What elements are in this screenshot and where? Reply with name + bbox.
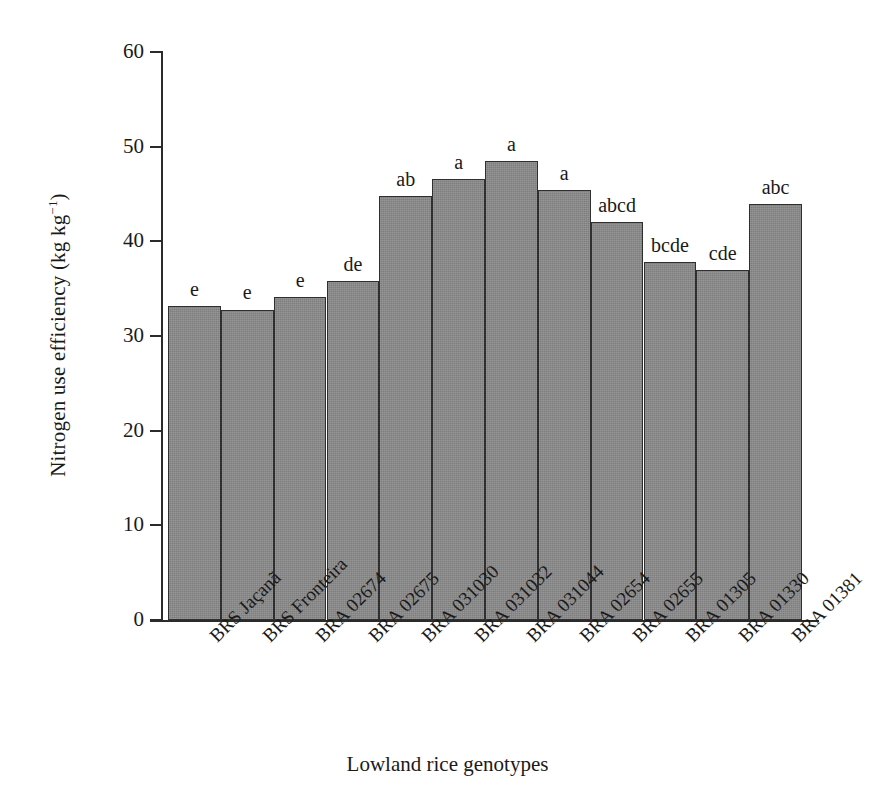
bar bbox=[221, 310, 274, 621]
bar-significance-letter: e bbox=[221, 282, 274, 302]
y-axis-tick-label: 40 bbox=[86, 230, 144, 252]
bar bbox=[591, 222, 644, 620]
y-axis-tick bbox=[150, 430, 162, 432]
x-axis-tick-label: BRA 01305 bbox=[682, 632, 695, 645]
y-axis-title: Nitrogen use efficiency (kg kg−1) bbox=[45, 55, 71, 615]
bar-significance-letter: e bbox=[168, 279, 221, 299]
y-axis-title-exponent: −1 bbox=[45, 200, 60, 214]
bar-significance-letter: a bbox=[485, 134, 538, 154]
bar-chart-figure: Nitrogen use efficiency (kg kg−1) 010203… bbox=[0, 0, 895, 796]
bar-significance-letter: a bbox=[432, 152, 485, 172]
bar bbox=[327, 281, 380, 620]
x-axis-spine bbox=[150, 620, 819, 622]
bar bbox=[538, 190, 591, 620]
x-axis-tick-label: BRA 031032 bbox=[471, 632, 484, 645]
bar-significance-letter: abcd bbox=[591, 195, 644, 215]
bar-significance-letter: abc bbox=[749, 177, 802, 197]
x-axis-tick-label: BRS Jaçanã bbox=[206, 632, 219, 645]
x-axis-tick-label: BRA 031044 bbox=[523, 632, 536, 645]
y-axis-tick-label: 20 bbox=[86, 420, 144, 442]
bar-significance-letter: de bbox=[327, 254, 380, 274]
y-axis-tick bbox=[150, 524, 162, 526]
y-axis-tick bbox=[150, 240, 162, 242]
bar-significance-letter: a bbox=[538, 163, 591, 183]
bar-significance-letter: cde bbox=[696, 243, 749, 263]
y-axis-tick bbox=[150, 51, 162, 53]
y-axis-tick-label: 50 bbox=[86, 136, 144, 158]
y-axis-tick-label: 30 bbox=[86, 325, 144, 347]
x-axis-tick-label: BRA 031030 bbox=[418, 632, 431, 645]
x-axis-tick-label: BRA 02675 bbox=[365, 632, 378, 645]
x-axis-tick-label: BRA 01381 bbox=[788, 632, 801, 645]
bar-significance-letter: bcde bbox=[644, 235, 697, 255]
y-axis-tick-label-text: 50 bbox=[86, 136, 144, 157]
bar bbox=[168, 306, 221, 620]
y-axis-title-main: Nitrogen use efficiency (kg kg bbox=[46, 215, 70, 477]
x-axis-title: Lowland rice genotypes bbox=[0, 752, 895, 777]
y-axis-tick-label-text: 20 bbox=[86, 420, 144, 441]
y-axis-tick-label: 0 bbox=[86, 609, 144, 631]
y-axis-tick-label: 60 bbox=[86, 41, 144, 63]
bar bbox=[749, 204, 802, 620]
y-axis-tick bbox=[150, 619, 162, 621]
x-axis-tick-label: BRS Fronteira bbox=[259, 632, 272, 645]
x-axis-tick-label: BRA 01330 bbox=[735, 632, 748, 645]
x-axis-tick-label: BRA 02654 bbox=[576, 632, 589, 645]
bar bbox=[379, 196, 432, 620]
bar bbox=[696, 270, 749, 620]
y-axis-tick-label-text: 60 bbox=[86, 41, 144, 62]
bar bbox=[485, 161, 538, 620]
bar bbox=[432, 179, 485, 620]
bar bbox=[274, 297, 327, 620]
y-axis-tick-label-text: 30 bbox=[86, 325, 144, 346]
y-axis-tick-label: 10 bbox=[86, 514, 144, 536]
y-axis-tick bbox=[150, 146, 162, 148]
x-axis-tick-label: BRA 02655 bbox=[629, 632, 642, 645]
y-axis-tick-label-text: 0 bbox=[86, 609, 144, 630]
y-axis-title-tail: ) bbox=[46, 193, 70, 200]
bar bbox=[644, 262, 697, 620]
y-axis-tick-label-text: 10 bbox=[86, 514, 144, 535]
bar-significance-letter: ab bbox=[379, 169, 432, 189]
y-axis-tick bbox=[150, 335, 162, 337]
x-axis-tick-label: BRA 02674 bbox=[312, 632, 325, 645]
bar-significance-letter: e bbox=[274, 270, 327, 290]
y-axis-tick-label-text: 40 bbox=[86, 230, 144, 251]
